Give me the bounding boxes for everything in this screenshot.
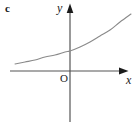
origin-label: O xyxy=(60,73,68,84)
x-axis-label: x xyxy=(126,74,131,86)
coordinate-plane-graphic xyxy=(0,0,140,128)
figure-container: c y x O xyxy=(0,0,140,128)
y-axis-arrowhead xyxy=(67,4,74,14)
y-axis-label: y xyxy=(57,2,62,14)
part-label: c xyxy=(5,3,10,14)
exponential-curve xyxy=(15,14,131,64)
